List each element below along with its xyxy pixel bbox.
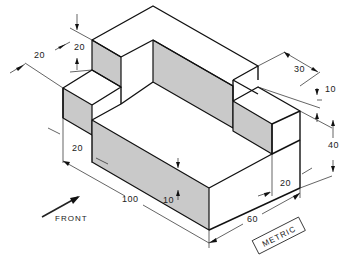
dim-step-depth-left: 20	[34, 50, 45, 60]
dim-step-height-left: 20	[74, 42, 85, 52]
dim-base-thickness: 10	[163, 195, 174, 205]
dim-right-step-height: 10	[325, 84, 336, 94]
dim-right-step-width: 20	[280, 178, 291, 188]
dimension-lines	[10, 14, 335, 248]
dim-overall-length: 100	[122, 194, 139, 204]
isometric-drawing: 20 20 20 100 10 60 20 40 30 10 FRONT MET…	[0, 0, 348, 259]
front-label: FRONT	[55, 214, 88, 223]
dim-front-step-width: 20	[72, 143, 83, 153]
metric-badge: METRIC	[252, 217, 305, 254]
dim-overall-height: 40	[328, 140, 339, 150]
dim-rear-block-depth: 30	[294, 64, 305, 74]
dim-overall-width: 60	[247, 214, 258, 224]
